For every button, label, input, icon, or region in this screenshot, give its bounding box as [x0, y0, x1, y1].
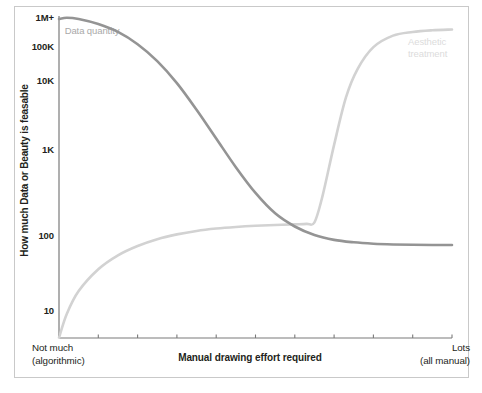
series-line-data-quantity	[59, 18, 452, 245]
chart-axes	[59, 16, 452, 338]
series-line-aesthetic-treatment	[59, 30, 452, 338]
chart-plot-area	[0, 0, 482, 393]
chart-figure: 1M+ 100K 10K 1K 100 10 How much Data or …	[0, 0, 482, 393]
